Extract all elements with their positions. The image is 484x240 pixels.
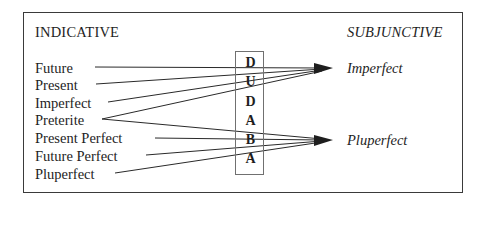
line-present-to-imperfect <box>96 69 322 84</box>
line-imperfect-to-imperfect <box>108 70 322 102</box>
mnemonic-letter: A <box>236 113 265 129</box>
mnemonic-letter: U <box>236 74 265 90</box>
arrowhead-pluperfect-icon <box>314 135 333 146</box>
line-future-perfect-to-pluperfect <box>146 141 322 155</box>
arrowhead-imperfect-icon <box>314 63 333 74</box>
mnemonic-letter: A <box>236 151 265 167</box>
line-preterite-to-imperfect <box>102 71 322 119</box>
line-pluperfect-to-pluperfect <box>115 142 322 173</box>
dudaba-mnemonic-box: D U D A B A <box>235 51 264 175</box>
line-future-to-imperfect <box>95 67 322 68</box>
mnemonic-letter: D <box>236 55 265 71</box>
line-preterite-to-pluperfect <box>102 119 322 139</box>
mnemonic-letter: B <box>236 132 265 148</box>
mnemonic-letter: D <box>236 94 265 110</box>
